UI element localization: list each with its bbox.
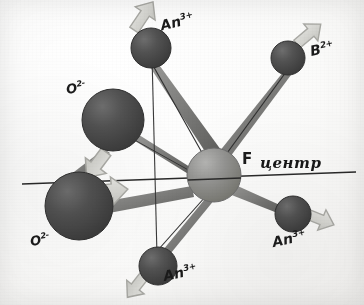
atom-an-top[interactable] <box>131 28 171 68</box>
label-an-bottom-charge: 3+ <box>182 261 197 273</box>
bond-line-an-bottom <box>158 196 206 250</box>
label-o-upper-charge: 2- <box>76 78 86 88</box>
f-center-symbol: F <box>242 152 252 167</box>
molecular-diagram-figure: An3+ B2+ O2- O2- An3+ An3+ F центр <box>0 0 364 305</box>
f-center-annotation: центр <box>260 154 321 172</box>
bond-line-b-right <box>222 72 286 160</box>
bond-line-an-top <box>151 62 205 158</box>
vertical-guide <box>152 56 157 256</box>
label-o-lower-charge: 2- <box>40 230 50 240</box>
bond-f-o-upper <box>135 133 190 175</box>
atom-f-center[interactable] <box>187 148 241 202</box>
label-an-right-charge: 3+ <box>291 227 306 239</box>
label-b-right-charge: 2+ <box>319 38 334 50</box>
atom-o-upper[interactable] <box>82 89 144 151</box>
atom-o-lower[interactable] <box>45 172 113 240</box>
atom-b-right[interactable] <box>271 41 305 75</box>
atom-an-right[interactable] <box>275 196 311 232</box>
bond-f-an-bottom <box>163 199 215 253</box>
label-an-top-charge: 3+ <box>179 9 194 22</box>
bond-line-o-upper <box>131 138 192 172</box>
